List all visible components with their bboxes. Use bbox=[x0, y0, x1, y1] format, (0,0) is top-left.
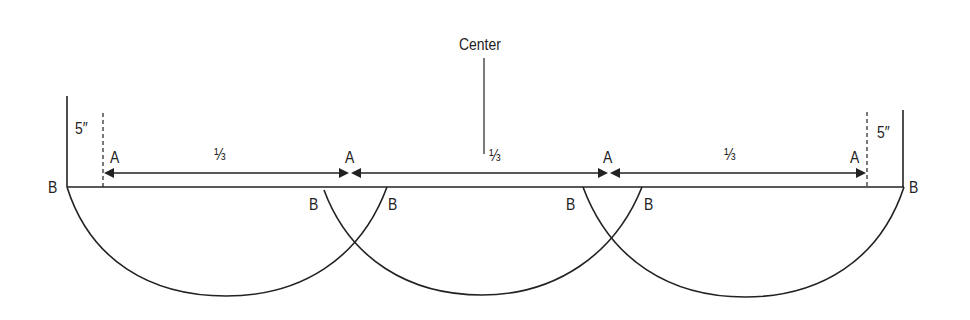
arrowhead-left-3 bbox=[610, 168, 620, 178]
point-a-1: A bbox=[110, 149, 119, 166]
arrowhead-right-1 bbox=[339, 168, 349, 178]
third-label-1: ⅓ bbox=[214, 146, 226, 163]
point-a-4: A bbox=[850, 149, 859, 166]
right-arc bbox=[583, 187, 904, 297]
point-b-right-end: B bbox=[909, 179, 918, 196]
point-b-5: B bbox=[644, 196, 653, 213]
right-margin-label: 5″ bbox=[877, 124, 890, 141]
arrowhead-right-2 bbox=[598, 168, 608, 178]
arrowhead-right-3 bbox=[856, 168, 866, 178]
arrowhead-left-2 bbox=[351, 168, 361, 178]
center-label: Center bbox=[459, 36, 501, 53]
third-label-3: ⅓ bbox=[724, 146, 736, 163]
point-b-4: B bbox=[566, 196, 575, 213]
middle-arc bbox=[324, 187, 642, 295]
point-b-left-end: B bbox=[48, 179, 57, 196]
left-arc bbox=[67, 187, 387, 296]
third-label-2: ⅓ bbox=[489, 147, 501, 164]
left-margin-label: 5″ bbox=[75, 120, 88, 137]
point-a-3: A bbox=[603, 149, 612, 166]
arrowhead-left-1 bbox=[104, 168, 114, 178]
point-a-2: A bbox=[345, 149, 354, 166]
point-b-3: B bbox=[388, 196, 397, 213]
diagram-canvas: Center 5″ 5″ ⅓ ⅓ ⅓ A A A A B B B B B B bbox=[0, 0, 970, 320]
point-b-2: B bbox=[309, 196, 318, 213]
